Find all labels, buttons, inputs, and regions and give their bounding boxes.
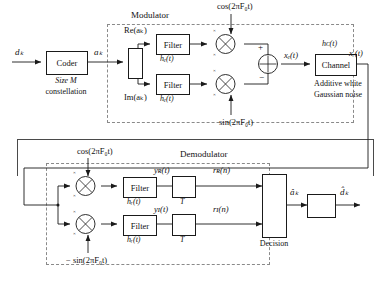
signal-yi-label: yɪ(t) <box>154 205 168 214</box>
mixer-tx-q-mark-top: × <box>213 68 216 73</box>
decision-caption: Decision <box>249 240 299 249</box>
mixer-rx-q-mark-bottom: × <box>73 231 76 236</box>
signal-re-ak-label: Re(aₖ) <box>124 26 147 35</box>
signal-dk-label: dₖ <box>15 48 24 57</box>
coder-caption-line1: Size M <box>40 77 92 86</box>
sampler-i-block[interactable] <box>172 176 196 198</box>
signal-xe-label: xₑ(t) <box>284 51 298 60</box>
mixer-tx-i-mark-bottom: × <box>213 52 216 57</box>
sampler-q-block[interactable] <box>172 214 196 236</box>
carrier-cos-tx-label: cos(2πF₀t) <box>217 2 253 11</box>
signal-im-ak-label: Im(aₖ) <box>124 93 147 102</box>
impulse-response-he-top-label: hₑ(t) <box>160 55 174 63</box>
decision-block[interactable] <box>262 174 287 238</box>
signal-ri-label: rɪ(n) <box>213 205 229 214</box>
diagram-canvas: Coder Filter Filter Channel Filter Filte… <box>0 0 380 282</box>
signal-ak-label: aₖ <box>94 48 103 57</box>
coder-caption-line2: constellation <box>32 88 100 97</box>
signal-xr-label: xᵣ(t) <box>349 49 363 58</box>
adder-minus-sign: − <box>259 73 264 82</box>
constellation-splitter-block[interactable] <box>128 48 143 79</box>
receive-filter-q-block[interactable]: Filter <box>123 215 157 236</box>
carrier-sin-tx-label: sin(2πF₀t) <box>219 118 253 127</box>
carrier-cos-rx-label: cos(2πF₀t) <box>77 147 113 156</box>
modulator-group-label: Modulator <box>131 11 169 20</box>
signal-rr-label: rʀ(n) <box>213 166 230 175</box>
impulse-response-hc-label: hᴄ(t) <box>322 40 337 48</box>
impulse-response-he-bottom-label: hₑ(t) <box>160 95 174 103</box>
decoder-block[interactable] <box>307 194 336 218</box>
signal-a-hat-label: âₖ <box>290 188 299 197</box>
coder-block[interactable]: Coder <box>46 51 88 75</box>
mixer-rx-i-mark-top: × <box>73 170 76 175</box>
transmit-filter-q-block[interactable]: Filter <box>156 74 190 95</box>
signal-yr-label: yʀ(t) <box>154 166 170 175</box>
mixer-rx-i-mark-bottom: × <box>73 193 76 198</box>
sampler-period-top-label: T <box>180 198 184 206</box>
mixer-tx-q-mark-bottom: × <box>213 92 216 97</box>
sampler-period-bottom-label: T <box>180 236 184 244</box>
impulse-response-hr-top-label: hᵣ(t) <box>127 198 141 206</box>
transmit-filter-i-block[interactable]: Filter <box>156 34 190 55</box>
signal-d-hat-label: d̂ₖ <box>340 188 349 197</box>
mixer-rx-q-mark-top: × <box>73 209 76 214</box>
adder-plus-sign: + <box>258 43 263 52</box>
channel-caption-line1: Additive white <box>300 80 376 89</box>
mixer-tx-i-mark-top: × <box>213 28 216 33</box>
impulse-response-hr-bottom-label: hᵣ(t) <box>127 236 141 244</box>
channel-caption-line2: Gaussian noise <box>300 91 376 100</box>
receive-filter-i-block[interactable]: Filter <box>123 177 157 198</box>
demodulator-group-label: Demodulator <box>180 150 228 159</box>
carrier-minus-sin-rx-label: − sin(2πF₀t) <box>66 256 107 265</box>
